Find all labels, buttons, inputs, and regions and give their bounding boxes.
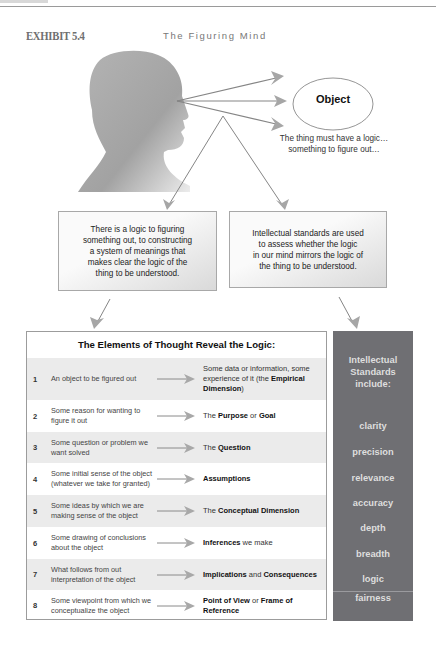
- element-description: Some drawing of conclusions about the ob…: [51, 533, 155, 553]
- table-row: 7What follows from out interpretation of…: [27, 559, 326, 590]
- standards-box-line: Intellectual standards are used: [252, 228, 364, 239]
- element-result: The Question: [197, 443, 326, 453]
- element-description: Some ideas by which we are making sense …: [51, 501, 155, 521]
- table-rows: 1An object to be figured outSome data or…: [27, 358, 326, 621]
- logic-box-line: thing to be understood.: [83, 268, 192, 279]
- row-number: 4: [27, 475, 51, 484]
- arrow-right-icon: [155, 601, 197, 611]
- standard-item: accuracy: [333, 498, 413, 508]
- standard-item: clarity: [333, 421, 413, 431]
- logic-box: There is a logic to figuring something o…: [58, 211, 217, 291]
- head-silhouette-icon: [78, 51, 190, 192]
- logic-box-line: There is a logic to figuring: [83, 224, 192, 235]
- elements-of-thought-table: The Elements of Thought Reveal the Logic…: [26, 331, 327, 620]
- arrow-right-icon: [155, 411, 197, 421]
- caption-line: something to figure out…: [278, 144, 390, 155]
- element-result: Assumptions: [197, 474, 326, 484]
- panel-heading: Intellectual Standards include:: [333, 354, 413, 390]
- table-row: 5Some ideas by which we are making sense…: [27, 495, 326, 527]
- table-row: 6Some drawing of conclusions about the o…: [27, 527, 326, 559]
- element-result: The Purpose or Goal: [197, 411, 326, 421]
- element-result: The Conceptual Dimension: [197, 506, 326, 516]
- object-label: Object: [293, 93, 373, 105]
- table-row: 4Some initial sense of the object (whate…: [27, 463, 326, 495]
- panel-heading-line: Standards: [333, 366, 413, 378]
- arrow-right-icon: [155, 538, 197, 548]
- element-description: Some reason for wanting to figure it out: [51, 406, 155, 426]
- row-number: 1: [27, 375, 51, 384]
- row-number: 7: [27, 570, 51, 579]
- element-result: Some data or information, some experienc…: [197, 364, 326, 394]
- arrow-right-icon: [155, 374, 197, 384]
- logic-box-line: makes clear the logic of the: [83, 257, 192, 268]
- intellectual-standards-panel: Intellectual Standards include: clarity …: [333, 331, 413, 621]
- standard-item: logic: [333, 574, 413, 584]
- standards-box-line: to assess whether the logic: [252, 239, 364, 250]
- panel-heading-line: include:: [333, 378, 413, 390]
- element-description: An object to be figured out: [51, 374, 155, 384]
- row-number: 2: [27, 412, 51, 421]
- arrow-right-icon: [155, 506, 197, 516]
- element-description: Some viewpoint from which we conceptuali…: [51, 596, 155, 616]
- standard-item: fairness: [333, 593, 413, 603]
- element-result: Inferences we make: [197, 538, 326, 548]
- table-row: 3Some question or problem we want solved…: [27, 432, 326, 463]
- standards-box: Intellectual standards are used to asses…: [229, 211, 387, 288]
- table-row: 8Some viewpoint from which we conceptual…: [27, 590, 326, 621]
- caption-line: The thing must have a logic…: [278, 133, 390, 144]
- element-description: Some initial sense of the object (whatev…: [51, 469, 155, 489]
- logic-box-line: something out, to constructing: [83, 235, 192, 246]
- element-description: Some question or problem we want solved: [51, 438, 155, 458]
- table-header: The Elements of Thought Reveal the Logic…: [27, 332, 326, 358]
- row-number: 6: [27, 539, 51, 548]
- standards-box-line: in our mind mirrors the logic of: [252, 250, 364, 261]
- arrowhead-icon: [271, 117, 284, 131]
- element-description: What follows from out interpretation of …: [51, 565, 155, 585]
- row-number: 5: [27, 507, 51, 516]
- standard-item: relevance: [333, 473, 413, 483]
- standards-box-line: the thing to be understood.: [252, 261, 364, 272]
- row-number: 3: [27, 443, 51, 452]
- table-row: 1An object to be figured outSome data or…: [27, 358, 326, 400]
- panel-heading-line: Intellectual: [333, 354, 413, 366]
- standard-item: depth: [333, 523, 413, 533]
- arrow-right-icon: [155, 570, 197, 580]
- panel-divider: [333, 591, 413, 592]
- arrow-right-icon: [155, 474, 197, 484]
- logic-box-line: a system of meanings that: [83, 246, 192, 257]
- element-result: Implications and Consequences: [197, 570, 326, 580]
- object-caption: The thing must have a logic… something t…: [278, 133, 390, 155]
- arrowhead-icon: [271, 71, 284, 85]
- element-result: Point of View or Frame of Reference: [197, 596, 326, 616]
- arrow-right-icon: [155, 443, 197, 453]
- table-row: 2Some reason for wanting to figure it ou…: [27, 400, 326, 432]
- standard-item: precision: [333, 447, 413, 457]
- standard-item: breadth: [333, 549, 413, 559]
- row-number: 8: [27, 601, 51, 610]
- gaze-arrows: [177, 78, 278, 124]
